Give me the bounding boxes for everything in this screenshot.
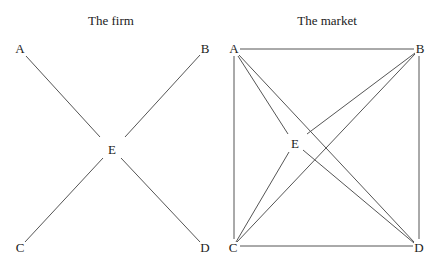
market-edge-b-c <box>237 54 415 242</box>
firm-edge-d-e <box>121 158 200 242</box>
market-edge-d-e <box>303 150 414 243</box>
market-node-a: A <box>229 42 238 55</box>
firm-node-b: B <box>201 42 210 55</box>
market-title: The market <box>297 14 357 27</box>
market-node-d: D <box>414 241 423 254</box>
diagram-canvas <box>0 0 439 266</box>
firm-node-c: C <box>16 241 25 254</box>
market-node-e: E <box>291 137 299 150</box>
market-edge-b-e <box>307 53 415 134</box>
market-edge-a-e <box>238 56 288 134</box>
market-node-c: C <box>229 241 238 254</box>
firm-edge-b-e <box>125 55 200 137</box>
market-edges <box>234 49 419 246</box>
market-edge-c-e <box>236 152 289 242</box>
market-node-b: B <box>416 42 425 55</box>
firm-node-d: D <box>200 241 209 254</box>
firm-title: The firm <box>88 14 134 27</box>
firm-node-a: A <box>15 42 24 55</box>
firm-node-e: E <box>108 143 116 156</box>
firm-edge-c-e <box>25 158 103 242</box>
firm-edge-a-e <box>26 56 100 137</box>
